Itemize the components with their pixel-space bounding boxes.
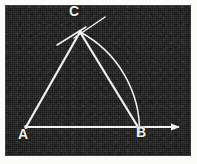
vertex-label-c: C: [69, 4, 79, 18]
arc-mark-right: [74, 17, 105, 38]
segment-AC: [26, 32, 80, 127]
vertex-label-b: B: [136, 125, 146, 139]
construction-drawing: [5, 5, 191, 156]
figure-root: A B C: [0, 0, 197, 164]
vertex-label-a: A: [18, 127, 28, 141]
base-ray-arrowhead: [171, 123, 180, 130]
vertex-dot-C: [78, 30, 82, 34]
diagram-plate: [5, 5, 191, 156]
base-ray: [26, 123, 180, 130]
segment-CB: [80, 32, 138, 127]
